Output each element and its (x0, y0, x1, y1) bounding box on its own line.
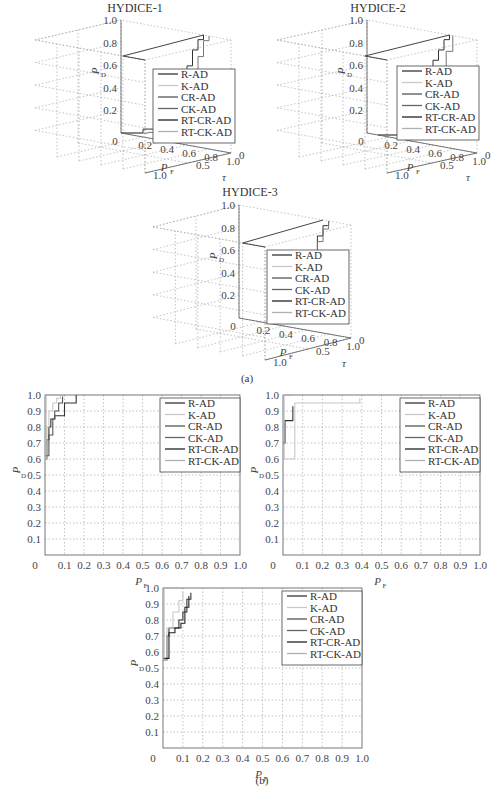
x-axis-label: P (160, 161, 168, 173)
x-axis-label-sub: F (170, 168, 174, 176)
legend-label: RT-CR-AD (188, 443, 238, 455)
x-tick: 0.8 (315, 752, 329, 764)
x-tick: 0 (150, 752, 156, 764)
tau-tick: 0.5 (196, 159, 210, 171)
y-tick: 1.0 (265, 389, 279, 401)
x-axis-label-sub: F (383, 582, 387, 590)
z-tick: 1.0 (103, 14, 117, 26)
legend-label: RT-CK-AD (425, 123, 476, 135)
x-tick: 0.6 (428, 147, 442, 159)
plot-3d-hydice-1: HYDICE-10.20.40.60.81.000.20.40.60.81.00… (35, 1, 245, 183)
x-tick: 0.3 (216, 752, 230, 764)
tau-axis-label: τ (466, 171, 471, 183)
y-tick: 0.4 (27, 485, 41, 497)
x-axis-label: P (406, 161, 414, 173)
legend-label: K-AD (181, 80, 209, 92)
plot-3d-hydice-2: HYDICE-20.20.40.60.81.000.20.40.60.81.00… (277, 1, 491, 183)
chart-title: HYDICE-1 (107, 1, 162, 15)
z-axis-label: P (207, 252, 219, 260)
x-axis-label-sub: F (289, 353, 293, 361)
legend-label: CK-AD (428, 432, 463, 444)
legend-label: RT-CK-AD (310, 648, 361, 660)
y-tick: 0.7 (27, 437, 41, 449)
roc-curve-cr-ad (45, 397, 63, 456)
legend-label: R-AD (425, 65, 452, 77)
y-axis-label-sub: D (259, 472, 264, 480)
plot-2d-1: 00.10.20.30.40.50.60.70.80.91.00.10.20.3… (248, 389, 487, 590)
x-tick: 0.6 (155, 559, 169, 571)
x-tick: 0.1 (296, 559, 310, 571)
z-tick: 0.8 (103, 37, 117, 49)
x-tick: 0.6 (182, 147, 196, 159)
roc-curve-r-ad (45, 395, 76, 459)
legend-label: RT-CR-AD (428, 443, 478, 455)
legend: R-ADK-ADCR-ADCK-ADRT-CR-ADRT-CK-AD (400, 397, 480, 472)
x-tick: 0.4 (355, 559, 369, 571)
y-tick: 0.9 (27, 405, 41, 417)
legend-label: CR-AD (181, 91, 215, 103)
legend-label: RT-CK-AD (295, 307, 346, 319)
z-axis-label-sub: D (347, 71, 352, 79)
y-tick: 0.1 (27, 533, 41, 545)
z-axis-label-sub: D (101, 71, 106, 79)
y-tick: 0.9 (145, 598, 159, 610)
x-tick: 0.8 (194, 559, 208, 571)
legend-label: K-AD (425, 77, 453, 89)
plot-3d-hydice-3: HYDICE-30.20.40.60.81.000.20.40.60.81.00… (153, 185, 365, 369)
x-tick: 0.4 (279, 328, 293, 340)
y-axis-label-sub: D (139, 665, 144, 673)
y-tick: 0.3 (145, 694, 159, 706)
x-tick: 0.2 (138, 139, 152, 151)
tau-axis-label: τ (342, 357, 347, 369)
y-tick: 0.7 (145, 630, 159, 642)
y-axis-label-sub: D (21, 472, 26, 480)
x-tick: 1.0 (355, 752, 369, 764)
x-tick: 0.7 (175, 559, 189, 571)
x-tick: 0.6 (301, 332, 315, 344)
x-tick: 0.2 (196, 752, 210, 764)
legend: R-ADK-ADCR-ADCK-ADRT-CR-ADRT-CK-AD (153, 68, 235, 143)
z-axis-label-sub: D (219, 256, 224, 264)
z-axis-label: P (335, 67, 347, 75)
legend-label: R-AD (181, 68, 208, 80)
z-tick: 0.2 (349, 104, 363, 116)
x-tick: 0.2 (316, 559, 330, 571)
z-axis-label: P (89, 67, 101, 75)
figure: HYDICE-10.20.40.60.81.000.20.40.60.81.00… (0, 0, 491, 788)
x-tick: 0.4 (406, 143, 420, 155)
z-tick: 1.0 (221, 199, 235, 211)
z-tick: 0.8 (349, 37, 363, 49)
z-tick: 0.4 (221, 267, 235, 279)
x-tick: 0.5 (256, 752, 270, 764)
z-tick: 1.0 (349, 14, 363, 26)
tau-tick: 0 (239, 149, 245, 161)
legend-label: RT-CR-AD (295, 295, 345, 307)
roc-curve-k-ad (283, 398, 360, 459)
legend: R-ADK-ADCR-ADCK-ADRT-CR-ADRT-CK-AD (160, 397, 240, 472)
z-tick: 0.8 (221, 222, 235, 234)
x-tick: 0.9 (335, 752, 349, 764)
legend-label: RT-CK-AD (428, 455, 479, 467)
legend-label: R-AD (310, 590, 337, 602)
legend-label: R-AD (295, 249, 322, 261)
x-tick: 0.7 (295, 752, 309, 764)
y-tick: 0.3 (27, 501, 41, 513)
chart-title: HYDICE-3 (222, 185, 277, 199)
x-tick: 0.3 (97, 559, 111, 571)
legend: R-ADK-ADCR-ADCK-ADRT-CR-ADRT-CK-AD (267, 249, 349, 324)
caption-b: (b) (256, 774, 269, 787)
y-tick: 0.1 (145, 726, 159, 738)
tau-axis-label: τ (222, 171, 227, 183)
chart-title: HYDICE-2 (350, 1, 405, 15)
legend-label: RT-CR-AD (310, 636, 360, 648)
legend-label: K-AD (188, 409, 216, 421)
x-tick: 1.0 (473, 559, 487, 571)
tau-tick: 0.5 (316, 345, 330, 357)
y-tick: 0.5 (27, 469, 41, 481)
x-tick: 0 (32, 559, 38, 571)
plot-2d-0: 00.10.20.30.40.50.60.70.80.91.00.10.20.3… (10, 389, 247, 590)
legend-label: RT-CR-AD (425, 111, 475, 123)
legend-label: K-AD (428, 409, 456, 421)
z-tick: 0.2 (103, 104, 117, 116)
x-tick: 1.0 (233, 559, 247, 571)
